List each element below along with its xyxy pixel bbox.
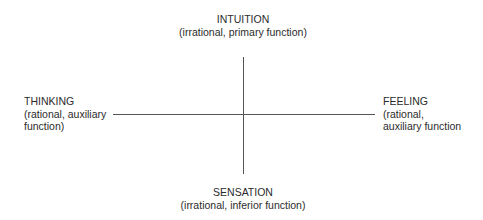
thinking-subtitle-line2: function) [24, 120, 106, 133]
feeling-label: FEELING (rational, auxiliary function [383, 95, 461, 133]
intuition-subtitle: (irrational, primary function) [143, 26, 343, 39]
horizontal-axis [113, 114, 375, 115]
feeling-subtitle-line1: (rational, [383, 108, 461, 121]
thinking-subtitle-line1: (rational, auxiliary [24, 108, 106, 121]
feeling-subtitle-line2: auxiliary function [383, 120, 461, 133]
intuition-label: INTUITION (irrational, primary function) [143, 13, 343, 38]
intuition-title: INTUITION [143, 13, 343, 26]
sensation-subtitle: (irrational, inferior function) [143, 199, 343, 212]
sensation-label: SENSATION (irrational, inferior function… [143, 186, 343, 211]
sensation-title: SENSATION [143, 186, 343, 199]
feeling-title: FEELING [383, 95, 461, 108]
thinking-label: THINKING (rational, auxiliary function) [24, 95, 106, 133]
vertical-axis [243, 57, 244, 174]
thinking-title: THINKING [24, 95, 106, 108]
